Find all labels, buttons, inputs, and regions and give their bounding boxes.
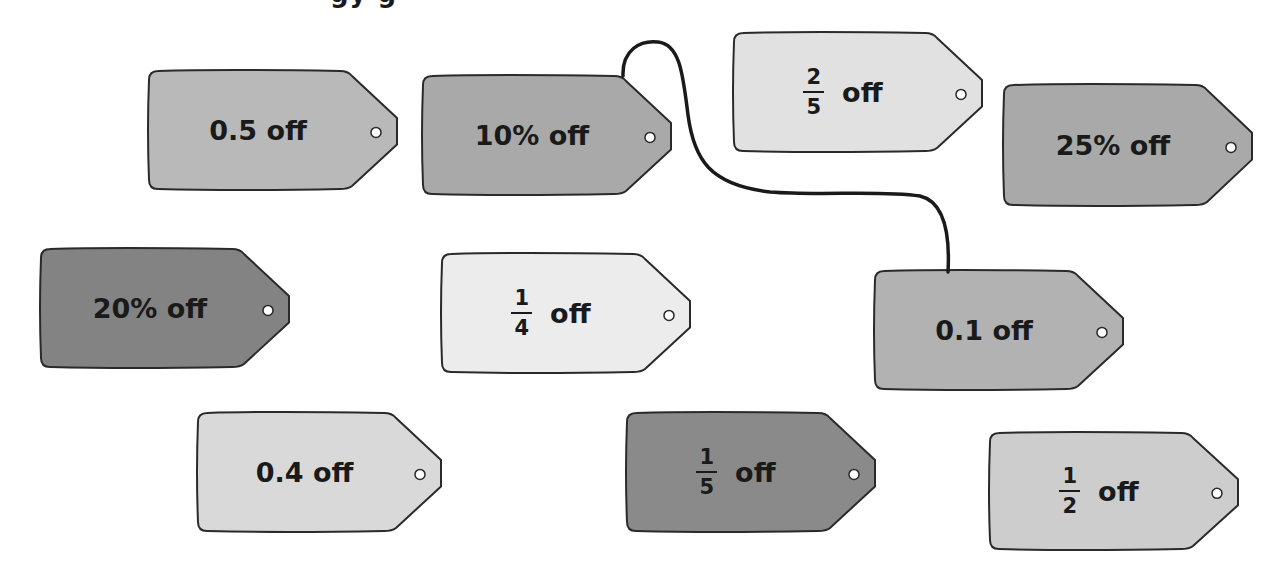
fraction-numerator: 1: [1059, 466, 1080, 492]
fraction-denominator: 5: [699, 473, 714, 498]
tag-suffix: off: [842, 77, 882, 108]
tag-label: 25% off: [1003, 84, 1223, 206]
tag-text: 10% off: [475, 120, 589, 151]
tag-2-5: 25off: [733, 32, 983, 152]
fraction-denominator: 2: [1062, 492, 1077, 517]
tag-0-4: 0.4 off: [197, 412, 442, 532]
tag-hole-icon: [1226, 142, 1236, 152]
tag-1-4: 14off: [441, 253, 691, 373]
tag-text: 0.1 off: [935, 315, 1033, 346]
fraction-numerator: 1: [696, 447, 717, 473]
tag-label: 14off: [441, 253, 661, 373]
tag-hole-icon: [849, 469, 859, 479]
fraction-numerator: 1: [511, 288, 532, 314]
tag-hole-icon: [263, 305, 273, 315]
tag-10-percent: 10% off: [422, 75, 672, 195]
cut-off-heading: gy g: [330, 0, 397, 8]
tag-label: 0.4 off: [197, 412, 412, 532]
tag-label: 0.1 off: [874, 270, 1094, 390]
tag-text: 20% off: [93, 293, 207, 324]
tag-hole-icon: [1097, 327, 1107, 337]
tag-hole-icon: [1212, 488, 1222, 498]
tag-label: 0.5 off: [148, 70, 368, 190]
tag-25-percent: 25% off: [1003, 84, 1253, 206]
tag-text: 25% off: [1056, 130, 1170, 161]
fraction: 14: [511, 288, 532, 339]
tag-suffix: off: [550, 298, 590, 329]
fraction: 12: [1059, 466, 1080, 517]
fraction-numerator: 2: [803, 67, 824, 93]
tag-hole-icon: [664, 310, 674, 320]
fraction-denominator: 5: [806, 93, 821, 118]
tag-hole-icon: [645, 132, 655, 142]
tag-label: 15off: [626, 412, 846, 532]
tag-1-5: 15off: [626, 412, 876, 532]
tag-20-percent: 20% off: [40, 248, 290, 368]
fraction: 25: [803, 67, 824, 118]
tag-label: 20% off: [40, 248, 260, 368]
fraction: 15: [696, 447, 717, 498]
tag-0-5: 0.5 off: [148, 70, 398, 190]
tag-hole-icon: [956, 89, 966, 99]
tag-0-1: 0.1 off: [874, 270, 1124, 390]
tag-label: 10% off: [422, 75, 642, 195]
tag-label: 12off: [989, 432, 1209, 550]
tag-text: 0.5 off: [209, 115, 307, 146]
tag-suffix: off: [735, 457, 775, 488]
tag-hole-icon: [415, 469, 425, 479]
tag-1-2: 12off: [989, 432, 1239, 550]
tag-text: 0.4 off: [256, 457, 354, 488]
tag-hole-icon: [371, 127, 381, 137]
tag-label: 25off: [733, 32, 953, 152]
fraction-denominator: 4: [514, 314, 529, 339]
tag-suffix: off: [1098, 476, 1138, 507]
